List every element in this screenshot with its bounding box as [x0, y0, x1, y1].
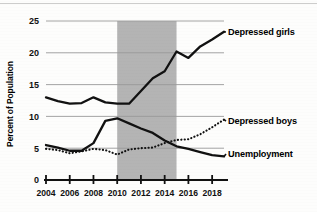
- series-label-unemployment: Unemployment: [228, 149, 293, 159]
- leader-line-depressed-boys: [224, 120, 226, 121]
- y-tick-20: 20: [29, 48, 39, 58]
- x-tick-2006: 2006: [60, 188, 79, 198]
- y-tick-15: 15: [29, 80, 39, 90]
- chart-figure: 0510152025 20042006200820102012201420162…: [0, 0, 317, 212]
- series-label-depressed-girls: Depressed girls: [228, 27, 295, 37]
- shaded-region: [117, 21, 176, 180]
- y-tick-0: 0: [34, 175, 39, 185]
- x-tick-2018: 2018: [203, 188, 222, 198]
- y-axis-tick-labels: 0510152025: [29, 16, 39, 185]
- x-axis-tick-labels: 20042006200820102012201420162018: [36, 188, 221, 198]
- y-tick-10: 10: [29, 112, 39, 122]
- leader-line-unemployment: [224, 154, 226, 156]
- x-tick-2008: 2008: [84, 188, 103, 198]
- x-tick-2010: 2010: [108, 188, 127, 198]
- x-tick-2004: 2004: [36, 188, 55, 198]
- series-label-depressed-boys: Depressed boys: [228, 116, 297, 126]
- label-leader-lines: [224, 32, 226, 157]
- x-tick-2012: 2012: [131, 188, 150, 198]
- x-tick-2016: 2016: [179, 188, 198, 198]
- y-tick-5: 5: [34, 144, 39, 154]
- x-tick-2014: 2014: [155, 188, 174, 198]
- y-tick-25: 25: [29, 16, 39, 26]
- line-chart: 0510152025 20042006200820102012201420162…: [0, 0, 317, 212]
- y-axis-title: Percent of Population: [5, 61, 15, 147]
